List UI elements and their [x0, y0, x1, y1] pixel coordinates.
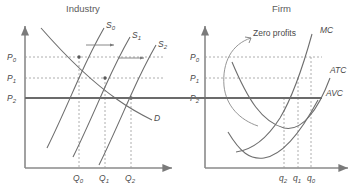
qty-label-q1: Q1: [99, 173, 109, 184]
panel-title-industry: Industry: [66, 3, 100, 14]
panel-title-firm: Firm: [272, 3, 291, 14]
cost-curve-atc: [232, 62, 330, 128]
economics-diagram: Industry Firm S0 S1 S: [0, 0, 355, 194]
cost-label-avc: AVC: [325, 88, 344, 98]
curve-label-s1: S1: [132, 30, 141, 41]
supply-curve-s0: [47, 28, 104, 148]
qty-label-firm-q1: q1: [293, 173, 301, 184]
equilibrium-point-1: [103, 76, 106, 79]
price-label-p1-firm: P1: [190, 73, 199, 84]
qty-label-firm-q2: q2: [279, 173, 288, 184]
supply-curve-s2: [99, 45, 156, 165]
industry-panel: S0 S1 S2 D P0 P1 P2 Q0 Q1 Q2: [7, 20, 172, 184]
curve-label-s2: S2: [158, 39, 168, 50]
price-label-p0-firm: P0: [190, 52, 200, 63]
price-label-p0-industry: P0: [7, 52, 17, 63]
cost-label-atc: ATC: [329, 65, 347, 75]
diagram-canvas: Industry Firm S0 S1 S: [0, 0, 355, 194]
price-label-p2-industry: P2: [7, 93, 17, 104]
price-label-p1-industry: P1: [7, 73, 16, 84]
firm-panel: Zero profits MC ATC AVC P0 P1 P2 q2 q1 q…: [190, 25, 348, 184]
qty-label-q0: Q0: [73, 173, 84, 184]
curve-label-s0: S0: [106, 20, 116, 31]
curve-label-d: D: [154, 113, 160, 123]
qty-label-q2: Q2: [125, 173, 136, 184]
cost-label-mc: MC: [320, 25, 334, 35]
cost-curve-avc: [228, 100, 318, 158]
qty-label-firm-q0: q0: [307, 173, 316, 184]
zero-profits-label: Zero profits: [253, 28, 296, 38]
equilibrium-point-0: [77, 55, 80, 58]
